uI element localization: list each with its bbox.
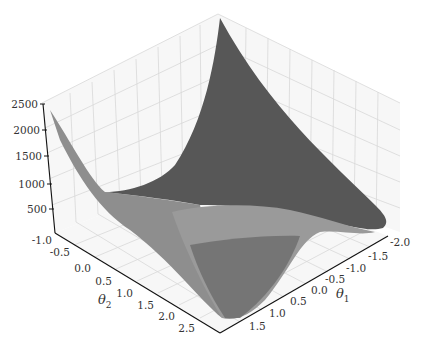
surface-plot-3d: 2500 2000 1500 1000 500 -1.0 -0.5 0.0 0.…	[0, 0, 422, 353]
theta2-tick: 2.0	[158, 310, 175, 322]
theta2-tick: -0.5	[50, 246, 70, 258]
theta2-tick: 0.5	[95, 275, 112, 287]
z-tick-500: 500	[27, 203, 47, 215]
theta1-tick: 0.0	[311, 284, 328, 296]
theta2-axis-label: θ2	[98, 292, 112, 310]
theta1-axis-label: θ1	[336, 286, 350, 304]
theta1-tick: -1.0	[346, 262, 366, 274]
theta2-tick: 0.0	[74, 262, 91, 274]
theta1-tick: 1.5	[249, 320, 266, 332]
theta1-tick: -2.0	[390, 236, 410, 248]
z-tick-2000: 2000	[13, 124, 40, 136]
theta2-tick: -1.0	[32, 234, 52, 246]
z-tick-2500: 2500	[11, 98, 38, 110]
theta2-tick: 2.5	[178, 322, 195, 334]
z-tick-1500: 1500	[15, 150, 42, 162]
theta1-tick: 1.0	[269, 307, 286, 319]
theta1-tick: -1.5	[368, 250, 388, 262]
theta2-tick: 1.0	[116, 287, 133, 299]
theta1-tick: 0.5	[290, 295, 307, 307]
theta1-tick: -0.5	[325, 273, 345, 285]
theta2-tick: 1.5	[137, 299, 154, 311]
z-tick-1000: 1000	[18, 178, 45, 190]
